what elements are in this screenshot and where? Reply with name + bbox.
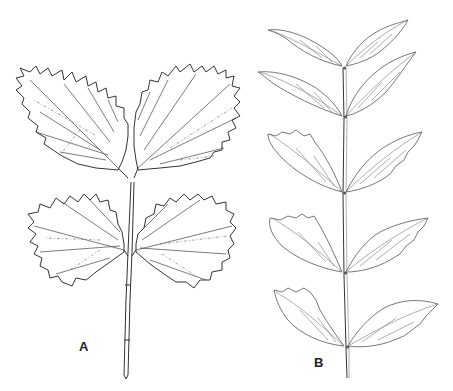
panel-label-a: A <box>79 340 88 353</box>
leaf-drawing-a <box>16 64 240 379</box>
botanical-figure: A B <box>0 0 453 391</box>
leaf-drawing-b <box>258 20 438 378</box>
leaf-illustrations <box>0 0 453 391</box>
panel-label-b: B <box>314 356 323 369</box>
